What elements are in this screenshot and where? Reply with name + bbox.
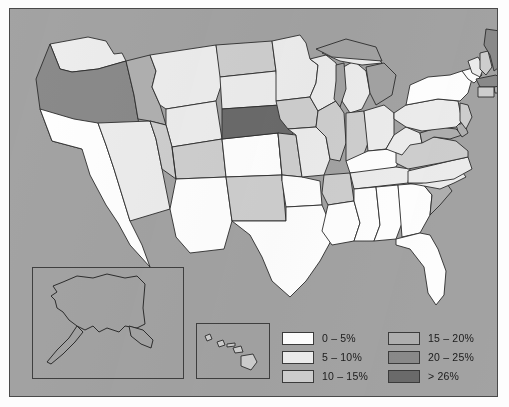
- inset-hawaii: [196, 323, 270, 379]
- state-NM[interactable]: [226, 175, 286, 221]
- legend-item: 15 – 20%: [388, 329, 488, 347]
- legend-label-5-10: 5 – 10%: [322, 351, 362, 363]
- state-FL[interactable]: [396, 233, 446, 305]
- legend-swatch-20-25: [388, 351, 420, 364]
- state-CT[interactable]: [478, 87, 494, 97]
- legend-label-10-15: 10 – 15%: [322, 370, 368, 382]
- state-OK[interactable]: [282, 175, 322, 207]
- legend-label-0-5: 0 – 5%: [322, 332, 356, 344]
- state-SD[interactable]: [220, 71, 280, 109]
- state-AZ[interactable]: [170, 177, 232, 253]
- legend-item: 10 – 15%: [282, 367, 382, 385]
- legend-swatch-15-20: [388, 332, 420, 345]
- legend-column-right: 15 – 20% 20 – 25% > 26%: [388, 329, 488, 386]
- map-figure-page: 0 – 5% 5 – 10% 10 – 15% 15 – 20%: [0, 0, 509, 407]
- legend-swatch-10-15: [282, 370, 314, 383]
- state-GA[interactable]: [398, 183, 432, 237]
- legend-label-20-25: 20 – 25%: [428, 351, 474, 363]
- legend-swatch-0-5: [282, 332, 314, 345]
- state-MS[interactable]: [354, 187, 380, 241]
- inset-alaska: [32, 267, 184, 379]
- aleutian-chain[interactable]: [47, 326, 83, 364]
- island-oahu[interactable]: [217, 340, 225, 347]
- legend-item: 0 – 5%: [282, 329, 382, 347]
- state-MN[interactable]: [272, 35, 318, 101]
- hawaii-svg: [197, 324, 269, 378]
- legend-column-left: 0 – 5% 5 – 10% 10 – 15%: [282, 329, 382, 386]
- state-MT[interactable]: [150, 45, 222, 109]
- legend-label-15-20: 15 – 20%: [428, 332, 474, 344]
- legend-label-over-26: > 26%: [428, 370, 459, 382]
- state-CO[interactable]: [222, 133, 282, 177]
- legend-item: 20 – 25%: [388, 348, 488, 366]
- state-RI[interactable]: [494, 86, 497, 93]
- state-LA[interactable]: [322, 201, 360, 245]
- alaska-panhandle[interactable]: [129, 326, 153, 348]
- legend-swatch-5-10: [282, 351, 314, 364]
- island-molokai[interactable]: [227, 343, 235, 347]
- lake-huron-erie: [366, 63, 396, 105]
- island-hawaii[interactable]: [241, 354, 257, 370]
- island-kauai[interactable]: [205, 334, 212, 341]
- legend-item: > 26%: [388, 367, 488, 385]
- island-maui[interactable]: [233, 346, 243, 353]
- map-frame: 0 – 5% 5 – 10% 10 – 15% 15 – 20%: [9, 8, 498, 397]
- alaska-svg: [33, 268, 183, 378]
- state-PA[interactable]: [394, 99, 462, 131]
- legend-swatch-over-26: [388, 370, 420, 383]
- legend-item: 5 – 10%: [282, 348, 382, 366]
- state-AR[interactable]: [322, 173, 354, 205]
- state-AK[interactable]: [51, 274, 145, 332]
- legend: 0 – 5% 5 – 10% 10 – 15% 15 – 20%: [282, 329, 486, 385]
